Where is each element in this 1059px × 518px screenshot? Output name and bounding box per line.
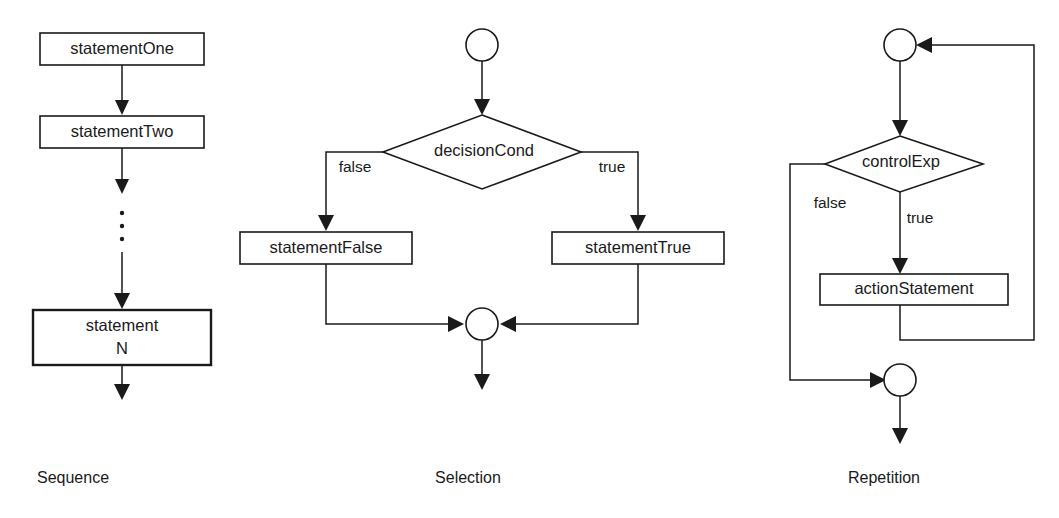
- edge-sel-false-to-merge: [326, 264, 464, 332]
- edge-seq-one-to-two: [115, 65, 129, 115]
- statement-two-label: statementTwo: [71, 122, 174, 140]
- arrowhead-icon: [114, 293, 130, 309]
- arrowhead-icon: [916, 37, 932, 53]
- arrowhead-icon: [630, 215, 646, 231]
- statement-n-label-line1: statement: [86, 316, 159, 334]
- arrowhead-icon: [500, 316, 516, 332]
- arrowhead-icon: [892, 120, 908, 136]
- repetition-entry-circle[interactable]: [884, 29, 916, 61]
- node-decision-cond[interactable]: decisionCond: [383, 115, 581, 189]
- edge-rep-exit: [892, 396, 908, 444]
- ellipsis-dot-1: [120, 211, 124, 215]
- node-action-statement[interactable]: actionStatement: [820, 274, 1008, 305]
- decision-cond-label: decisionCond: [434, 141, 534, 159]
- edge-rep-entry-to-decision: [892, 61, 908, 136]
- arrowhead-icon: [114, 384, 130, 400]
- statement-false-label: statementFalse: [270, 238, 383, 256]
- arrowhead-icon: [892, 428, 908, 444]
- arrowhead-icon: [474, 374, 490, 390]
- edge-sel-entry-to-decision: [474, 61, 490, 115]
- edge-label-true-selection: true: [599, 158, 626, 175]
- arrowhead-icon: [448, 316, 464, 332]
- arrowhead-icon: [318, 215, 334, 231]
- ellipsis-dot-3: [120, 237, 124, 241]
- caption-selection: Selection: [435, 469, 501, 486]
- caption-repetition: Repetition: [848, 469, 920, 486]
- arrowhead-icon: [115, 179, 129, 194]
- node-statement-false[interactable]: statementFalse: [240, 232, 412, 264]
- arrowhead-icon: [115, 100, 129, 115]
- edge-seq-ellipsis-to-n: [114, 252, 130, 309]
- node-statement-n[interactable]: statement N: [33, 310, 211, 365]
- panel-selection: decisionCond false true statementFalse s…: [240, 29, 724, 486]
- flowchart-diagram: statementOne statementTwo: [0, 0, 1059, 518]
- edge-sel-true-to-merge: [500, 264, 638, 332]
- statement-true-label: statementTrue: [585, 238, 691, 256]
- panel-sequence: statementOne statementTwo: [33, 33, 211, 486]
- statement-one-label: statementOne: [70, 39, 174, 57]
- arrowhead-icon: [474, 99, 490, 115]
- statement-n-label-line2: N: [116, 339, 128, 357]
- edge-sel-false: false: [318, 152, 383, 231]
- edge-sel-true-to-merge-line: [512, 264, 638, 324]
- flowchart-canvas: statementOne statementTwo: [0, 0, 1059, 518]
- edge-sel-false-to-merge-line: [326, 264, 452, 324]
- edge-sel-merge-to-exit: [474, 340, 490, 390]
- edge-seq-two-to-ellipsis: [115, 148, 129, 194]
- caption-sequence: Sequence: [37, 469, 109, 486]
- selection-merge-circle[interactable]: [466, 308, 498, 340]
- edge-label-true-repetition: true: [907, 209, 934, 226]
- node-statement-true[interactable]: statementTrue: [552, 232, 724, 264]
- node-statement-two[interactable]: statementTwo: [40, 116, 204, 148]
- node-control-exp[interactable]: controlExp: [825, 136, 983, 192]
- selection-entry-circle[interactable]: [466, 29, 498, 61]
- control-exp-label: controlExp: [862, 152, 940, 170]
- edge-seq-n-to-exit: [114, 365, 130, 400]
- edge-label-false-repetition: false: [814, 194, 847, 211]
- edge-rep-true: true: [892, 192, 933, 274]
- panel-repetition: controlExp false true actionStatement Re…: [790, 29, 1034, 486]
- ellipsis-dot-2: [120, 224, 124, 228]
- arrowhead-icon: [892, 258, 908, 274]
- edge-label-false-selection: false: [339, 158, 372, 175]
- vertical-ellipsis-icon: [120, 211, 124, 241]
- repetition-exit-circle[interactable]: [884, 364, 916, 396]
- node-statement-one[interactable]: statementOne: [40, 33, 204, 65]
- edge-sel-true: true: [581, 152, 646, 231]
- action-statement-label: actionStatement: [854, 279, 974, 297]
